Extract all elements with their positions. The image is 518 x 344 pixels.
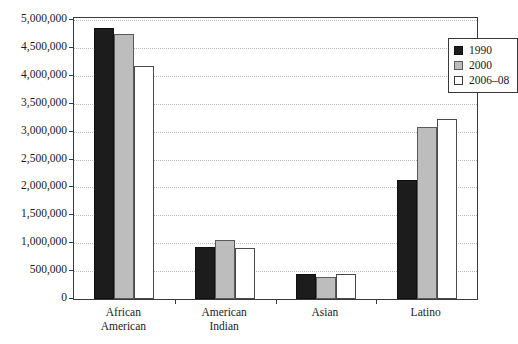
- x-axis-category-label-line: American: [73, 320, 174, 334]
- y-axis-tick-label: 2,000,000: [21, 181, 67, 193]
- x-axis-tick-mark: [276, 299, 277, 304]
- x-axis-category-label-line: Indian: [174, 320, 275, 334]
- x-axis-category-label-line: Latino: [375, 306, 476, 320]
- bar-group: [195, 18, 255, 299]
- y-axis-tick-label: 1,000,000: [21, 236, 67, 248]
- bar: [417, 127, 437, 299]
- x-axis-category-label: AfricanAmerican: [73, 306, 174, 333]
- x-axis-category-label: AmericanIndian: [174, 306, 275, 333]
- legend-item: 2006–08: [454, 73, 509, 88]
- bar: [397, 180, 417, 299]
- legend-swatch-1990: [454, 46, 463, 55]
- bar: [316, 277, 336, 299]
- x-axis-category-label: Latino: [375, 306, 476, 320]
- y-axis-tick-label: 4,500,000: [21, 41, 67, 53]
- y-axis-tick-label: 500,000: [30, 264, 67, 276]
- y-axis-tick-label: 5,000,000: [21, 13, 67, 25]
- plot-area: 1990 2000 2006–08: [73, 17, 478, 300]
- x-axis-category-label: Asian: [275, 306, 376, 320]
- y-axis-tick-label: 2,500,000: [21, 153, 67, 165]
- legend-label-2000: 2000: [469, 60, 492, 72]
- x-axis-category-label-line: Asian: [275, 306, 376, 320]
- y-axis-tick-label: 3,500,000: [21, 97, 67, 109]
- bar: [114, 34, 134, 299]
- bar: [336, 274, 356, 299]
- x-axis-category-label-line: American: [174, 306, 275, 320]
- x-axis-tick-mark: [376, 299, 377, 304]
- bar: [215, 240, 235, 299]
- y-axis-tick-label: 3,000,000: [21, 125, 67, 137]
- y-axis-tick-label: 4,000,000: [21, 69, 67, 81]
- legend-label-2006-08: 2006–08: [469, 75, 509, 87]
- y-axis-tick-label: 0: [61, 292, 67, 304]
- figure-caption: [22, 336, 462, 344]
- bar: [94, 28, 114, 299]
- x-axis-tick-mark: [175, 299, 176, 304]
- bar: [437, 119, 457, 300]
- bar: [296, 274, 316, 299]
- legend-item: 2000: [454, 58, 509, 73]
- x-axis-category-label-line: African: [73, 306, 174, 320]
- legend-item: 1990: [454, 43, 509, 58]
- bar: [235, 248, 255, 299]
- y-axis-tick-label: 1,500,000: [21, 209, 67, 221]
- legend-swatch-2006-08: [454, 76, 463, 85]
- bar-series-layer: [74, 18, 477, 299]
- legend-swatch-2000: [454, 61, 463, 70]
- chart-legend: 1990 2000 2006–08: [448, 38, 518, 93]
- bar-group: [94, 18, 154, 299]
- bar: [195, 247, 215, 299]
- legend-label-1990: 1990: [469, 45, 492, 57]
- bar: [134, 66, 154, 299]
- bar-group: [296, 18, 356, 299]
